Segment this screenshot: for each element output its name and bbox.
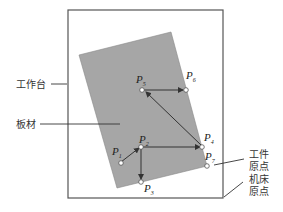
point-p6: [184, 88, 189, 93]
label-p4: P4: [203, 131, 214, 145]
leader-workpiece-origin: [214, 159, 244, 165]
point-p3: [139, 180, 144, 185]
label-p7: P7: [204, 150, 216, 164]
leader-machine-origin: [224, 182, 243, 197]
label-p3: P3: [143, 182, 154, 196]
label-machine-origin-2: 原点: [249, 186, 269, 197]
sheet-polygon: [79, 32, 207, 188]
nesting-diagram: P1 P2 P3 P4 P5 P6 P7 工作台 板材 工件 原点 机床 原点: [0, 0, 283, 212]
point-p1: [119, 161, 124, 166]
label-machine-origin-1: 机床: [249, 173, 269, 185]
point-p4: [200, 145, 205, 150]
point-p2: [139, 145, 144, 150]
point-p7: [205, 164, 210, 169]
label-p6: P6: [185, 69, 196, 83]
label-worktable: 工作台: [16, 78, 46, 90]
label-workpiece-origin-1: 工件: [249, 149, 269, 160]
label-sheet: 板材: [16, 118, 36, 130]
label-workpiece-origin-2: 原点: [249, 161, 269, 172]
point-p5: [140, 88, 145, 93]
